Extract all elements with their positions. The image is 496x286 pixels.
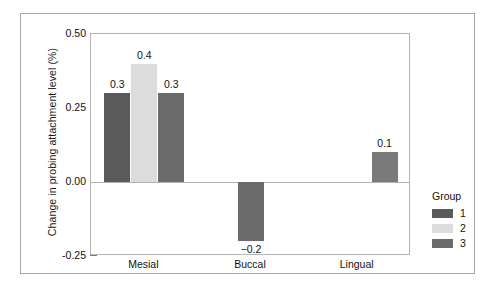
legend-items: 123 — [432, 207, 490, 249]
legend-title: Group — [432, 190, 490, 203]
legend-item[interactable]: 2 — [432, 222, 490, 234]
legend-item[interactable]: 3 — [432, 237, 490, 249]
bar-value-label: 0.1 — [359, 138, 411, 149]
legend-item[interactable]: 1 — [432, 207, 490, 219]
bar-value-label: −0.2 — [225, 244, 277, 255]
y-tick-label: 0.00 — [42, 176, 86, 186]
legend-label: 2 — [460, 223, 466, 233]
legend-swatch — [432, 224, 453, 233]
bar-value-label: 0.4 — [118, 50, 170, 61]
bar — [158, 93, 184, 182]
legend-label: 1 — [460, 208, 466, 218]
legend-label: 3 — [460, 238, 466, 248]
x-axis-label: Buccal — [197, 258, 304, 271]
plot-area: 0.30.40.3−0.20.1 — [90, 33, 410, 255]
legend-swatch — [432, 209, 453, 218]
legend-swatch — [432, 239, 453, 248]
bar — [104, 93, 130, 182]
y-tick-major — [90, 255, 97, 256]
bar — [372, 152, 398, 182]
chart-figure: Change in probing attachment level (%) 0… — [0, 0, 496, 286]
x-axis-label: Mesial — [90, 258, 197, 271]
bar-value-label: 0.3 — [145, 79, 197, 90]
y-axis-tick-labels: 0.500.250.00-0.25 — [38, 33, 86, 255]
y-tick-label: 0.50 — [42, 28, 86, 38]
x-axis-labels: MesialBuccalLingual — [90, 258, 410, 274]
legend: Group 123 — [432, 190, 490, 256]
bar — [238, 182, 264, 241]
y-tick-label: 0.25 — [42, 102, 86, 112]
y-tick-label: -0.25 — [42, 250, 86, 260]
x-axis-label: Lingual — [303, 258, 410, 271]
